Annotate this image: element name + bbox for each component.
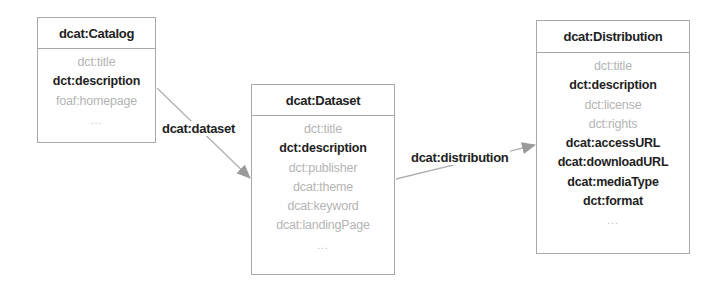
node-distribution: dcat:Distribution dct:title dct:descript… (536, 20, 690, 254)
property-dcat-keyword: dcat:keyword (252, 197, 394, 216)
node-catalog-title: dcat:Catalog (38, 18, 155, 49)
node-dataset-title: dcat:Dataset (252, 85, 394, 116)
property-dct-title: dct:title (537, 57, 689, 76)
property-dct-publisher: dct:publisher (252, 159, 394, 178)
edge-label-dcat-dataset: dcat:dataset (160, 121, 237, 136)
node-distribution-title: dcat:Distribution (537, 21, 689, 53)
property-dcat-theme: dcat:theme (252, 178, 394, 197)
property-dct-title: dct:title (38, 53, 155, 72)
node-dataset: dcat:Dataset dct:title dct:description d… (251, 84, 395, 275)
property-ellipsis: ... (537, 211, 689, 230)
property-ellipsis: ... (38, 111, 155, 130)
property-dcat-accessurl: dcat:accessURL (537, 134, 689, 153)
property-dcat-landingpage: dcat:landingPage (252, 216, 394, 235)
node-catalog-properties: dct:title dct:description foaf:homepage … (38, 49, 155, 130)
property-dcat-downloadurl: dcat:downloadURL (537, 153, 689, 172)
property-dct-license: dct:license (537, 96, 689, 115)
property-dct-description: dct:description (252, 139, 394, 158)
property-dct-description: dct:description (38, 72, 155, 91)
node-catalog: dcat:Catalog dct:title dct:description f… (37, 17, 156, 143)
property-dct-format: dct:format (537, 192, 689, 211)
edge-label-dcat-distribution: dcat:distribution (409, 150, 510, 165)
node-distribution-properties: dct:title dct:description dct:license dc… (537, 53, 689, 231)
node-dataset-properties: dct:title dct:description dct:publisher … (252, 116, 394, 255)
property-foaf-homepage: foaf:homepage (38, 92, 155, 111)
property-dct-description: dct:description (537, 76, 689, 95)
property-dct-rights: dct:rights (537, 115, 689, 134)
property-dct-title: dct:title (252, 120, 394, 139)
property-ellipsis: ... (252, 236, 394, 255)
property-dcat-mediatype: dcat:mediaType (537, 173, 689, 192)
